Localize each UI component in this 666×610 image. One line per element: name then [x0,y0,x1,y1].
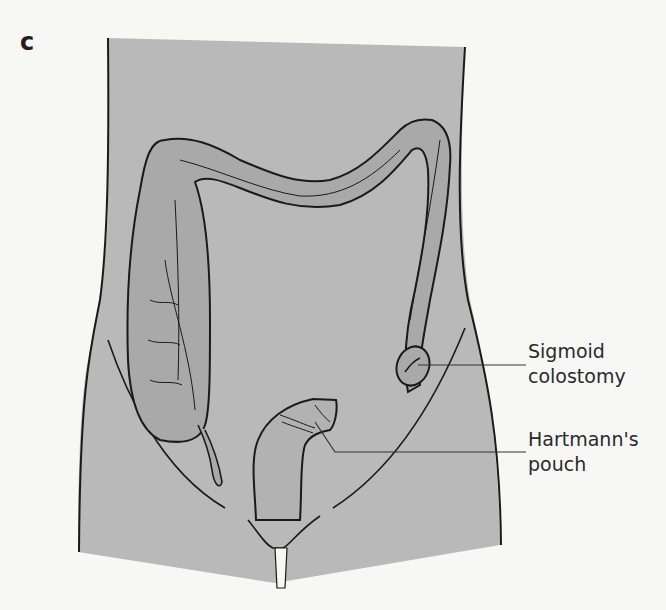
label-line: pouch [528,452,639,477]
perineum-gap [275,548,287,588]
label-hartmanns-pouch: Hartmann's pouch [528,427,639,477]
label-line: Sigmoid [528,339,626,364]
label-line: Hartmann's [528,427,639,452]
label-sigmoid-colostomy: Sigmoid colostomy [528,339,626,389]
hartmann-procedure-illustration [0,0,666,610]
label-line: colostomy [528,364,626,389]
